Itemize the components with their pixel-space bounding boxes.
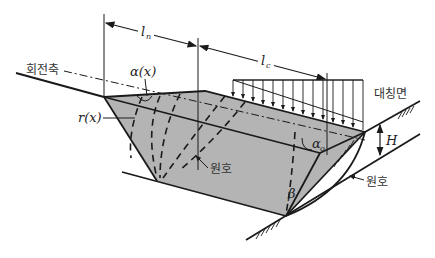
label-beta: β: [287, 186, 296, 201]
label-l-n-sub: n: [146, 32, 151, 41]
slope-failure-diagram: l n l c 회전축 α(x): [0, 0, 435, 258]
symmetry-plane-upper: [365, 101, 420, 132]
label-symmetry-plane: 대칭면: [374, 87, 407, 101]
arc-outer-leader: [350, 176, 364, 180]
label-alpha-o-sub: o: [320, 144, 325, 153]
label-r-x: r(x): [78, 110, 102, 125]
alpha-x-leader: [145, 79, 147, 96]
label-arc-inner: 원호: [210, 162, 232, 176]
label-l-n: l: [141, 24, 145, 39]
ground-hatch-lower: [256, 220, 280, 239]
label-arc-outer: 원호: [366, 175, 388, 189]
label-alpha-x: α(x): [130, 64, 156, 79]
label-l-c-sub: c: [266, 61, 271, 70]
label-h: H: [385, 133, 398, 148]
label-rotation-axis: 회전축: [26, 63, 59, 77]
label-l-c: l: [261, 53, 265, 68]
